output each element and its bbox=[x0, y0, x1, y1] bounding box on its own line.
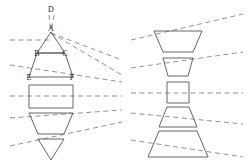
vertex-label-C: C bbox=[62, 49, 67, 58]
dashed-ray-rd2 bbox=[131, 52, 243, 68]
shape-r4-trapezoid-up bbox=[159, 107, 197, 127]
dashed-ray-rd4 bbox=[131, 113, 243, 124]
dashed-ray-rd5 bbox=[131, 140, 243, 157]
shape-l1-triangle-up bbox=[37, 32, 65, 53]
dashed-ray-rd1 bbox=[131, 14, 243, 40]
shape-l3-rectangle bbox=[29, 85, 73, 108]
vertex-label-B: B bbox=[34, 49, 39, 58]
shape-r3-square bbox=[167, 82, 189, 103]
vertex-label-layer: DABCEF bbox=[27, 5, 75, 82]
shape-r2-trapezoid-down bbox=[163, 58, 193, 76]
shape-r1-trapezoid-down bbox=[154, 31, 202, 52]
shape-layer bbox=[29, 31, 208, 160]
shape-l5-triangle-down bbox=[38, 139, 64, 160]
dashed-ray-ld8 bbox=[10, 122, 122, 146]
dashed-ray-layer bbox=[10, 14, 243, 157]
vertex-label-A: A bbox=[48, 24, 54, 33]
dashed-ray-ld7 bbox=[10, 110, 122, 118]
vertex-label-D: D bbox=[48, 5, 54, 14]
vertex-label-F: F bbox=[70, 73, 75, 82]
vertex-label-E: E bbox=[27, 73, 32, 82]
figure-canvas: DABCEF bbox=[0, 0, 251, 163]
geometry-figure: DABCEF bbox=[0, 0, 251, 163]
